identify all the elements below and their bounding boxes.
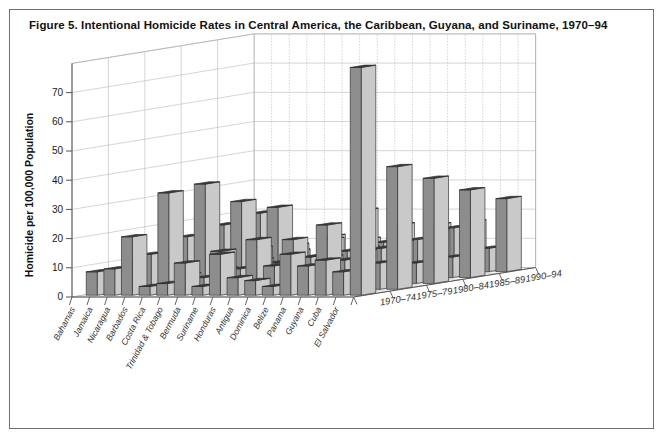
chart-plot-area: 010203040506070Homicide per 100,000 Popu… xyxy=(0,0,663,438)
svg-text:20: 20 xyxy=(52,233,64,244)
svg-text:60: 60 xyxy=(52,116,64,127)
svg-text:10: 10 xyxy=(52,262,64,273)
svg-text:1980–84: 1980–84 xyxy=(452,279,490,296)
svg-text:Homicide per 100,000 Populatio: Homicide per 100,000 Population xyxy=(23,113,35,278)
figure-container: Figure 5. Intentional Homicide Rates in … xyxy=(0,0,663,438)
svg-text:70: 70 xyxy=(52,87,64,98)
svg-text:Cuba: Cuba xyxy=(305,305,324,328)
bar-chart-3d: 010203040506070Homicide per 100,000 Popu… xyxy=(0,0,663,438)
svg-text:30: 30 xyxy=(52,204,64,215)
svg-text:50: 50 xyxy=(52,145,64,156)
svg-text:1985–89: 1985–89 xyxy=(488,273,527,290)
svg-text:1970–74: 1970–74 xyxy=(379,291,417,308)
svg-text:0: 0 xyxy=(57,291,63,302)
svg-text:1990–94: 1990–94 xyxy=(525,267,563,284)
svg-text:40: 40 xyxy=(52,175,64,186)
svg-text:1975–79: 1975–79 xyxy=(415,285,454,302)
svg-text:Bahamas: Bahamas xyxy=(51,305,77,342)
